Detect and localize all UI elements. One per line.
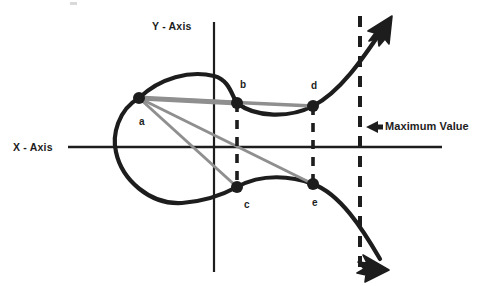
point-e[interactable] [307,178,319,190]
maximum-value-label: Maximum Value [385,121,469,132]
curve-lower-branch [115,98,380,259]
point-d[interactable] [307,100,319,112]
chord-a-c [139,98,237,187]
point-c[interactable] [231,181,243,193]
curve-diagram-svg [0,0,486,286]
x-axis-label: X - Axis [13,142,53,153]
point-label-b: b [240,80,246,90]
point-label-d: d [311,81,317,91]
chord-a-e [139,98,313,184]
curve-upper-arrowhead [368,16,392,46]
point-b[interactable] [231,97,243,109]
maximum-value-arrow [366,121,383,133]
point-a[interactable] [133,92,145,104]
point-label-c: c [244,200,250,210]
point-label-e: e [312,198,318,208]
point-label-a: a [139,117,145,127]
diagram-canvas: Y - Axis X - Axis Maximum Value a b c d … [0,0,486,286]
y-axis-label: Y - Axis [152,21,192,32]
